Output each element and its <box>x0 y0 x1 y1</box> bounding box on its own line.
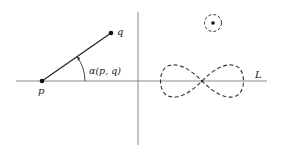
diagram-canvas: p q α(p, q) L <box>0 0 282 161</box>
point-p <box>40 79 45 84</box>
label-q: q <box>117 26 123 37</box>
lemniscate-crossing <box>201 80 203 82</box>
label-angle: α(p, q) <box>89 65 121 76</box>
circle-center-dot <box>211 21 215 25</box>
diagram: p q α(p, q) L <box>0 0 282 161</box>
point-q <box>109 31 114 36</box>
label-L: L <box>254 69 262 80</box>
label-p: p <box>38 85 45 96</box>
